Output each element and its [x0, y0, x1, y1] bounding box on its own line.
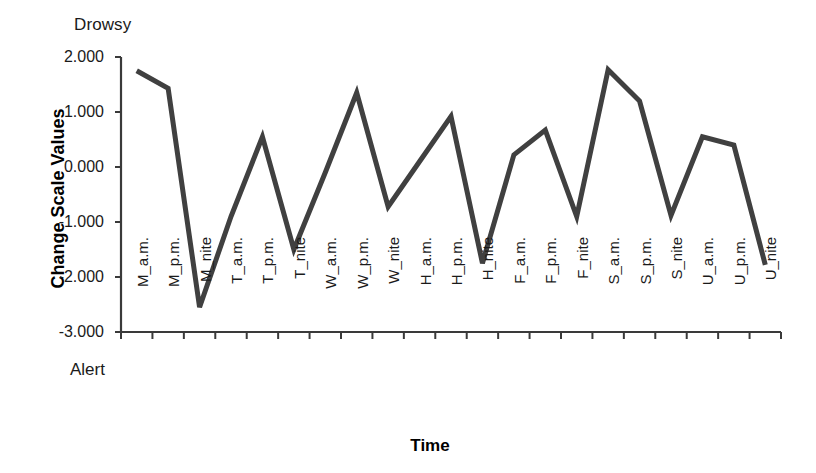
- x-tick-label: U_p.m.: [731, 231, 748, 341]
- x-tick-label: H_a.m.: [417, 231, 434, 341]
- x-tick-label: W_a.m.: [322, 231, 339, 341]
- x-tick-label: U_a.m.: [699, 231, 716, 341]
- x-tick-label: F_a.m.: [511, 231, 528, 341]
- chart-figure: Drowsy Alert Change Scale Values Time 2.…: [0, 0, 816, 473]
- x-tick-label: W_p.m.: [354, 231, 371, 341]
- x-tick-label: F_p.m.: [542, 231, 559, 341]
- x-tick-label: F_nite: [574, 231, 591, 341]
- x-tick-label: T_a.m.: [228, 231, 245, 341]
- x-tick-label: T_nite: [291, 231, 308, 341]
- x-tick-label: M_a.m.: [134, 231, 151, 341]
- x-tick-label: S_p.m.: [637, 231, 654, 341]
- x-tick-label: H_p.m.: [448, 231, 465, 341]
- x-tick-label: H_nite: [479, 231, 496, 341]
- x-tick-label: S_nite: [668, 231, 685, 341]
- x-tick-label: M_nite: [197, 231, 214, 341]
- x-tick-label: S_a.m.: [605, 231, 622, 341]
- x-tick-label: M_p.m.: [165, 231, 182, 341]
- x-axis-tick-labels: M_a.m.M_p.m.M_niteT_a.m.T_p.m.T_niteW_a.…: [0, 0, 816, 473]
- x-tick-label: U_nite: [762, 231, 779, 341]
- x-tick-label: T_p.m.: [259, 231, 276, 341]
- x-tick-label: W_nite: [385, 231, 402, 341]
